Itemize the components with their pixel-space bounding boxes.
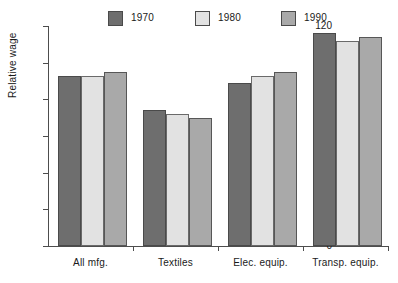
bar	[228, 83, 251, 246]
bar	[104, 72, 127, 246]
legend-swatch-1970	[108, 11, 123, 26]
y-axis-tick	[43, 209, 48, 210]
x-axis-group-label: Elec. equip.	[233, 258, 288, 268]
x-axis-separator-tick	[133, 246, 134, 251]
y-axis-title: Relative wage	[8, 33, 18, 98]
y-axis-tick	[43, 136, 48, 137]
bar	[336, 41, 359, 246]
bar	[166, 114, 189, 246]
y-axis-tick-label: 120	[302, 21, 332, 31]
x-axis-separator-tick	[388, 246, 389, 251]
legend-swatch-1980	[195, 11, 210, 26]
legend-label-1970: 1970	[131, 13, 154, 23]
bar	[189, 118, 212, 246]
legend-label-1980: 1980	[218, 13, 241, 23]
bar	[251, 76, 274, 247]
plot-area: 020406080100120 All mfg.TextilesElec. eq…	[48, 26, 388, 246]
y-axis-line	[48, 26, 49, 247]
bar-chart-figure: 1970 1980 1990 Relative wage 02040608010…	[0, 0, 398, 283]
legend-swatch-1990	[281, 11, 296, 26]
bar	[274, 72, 297, 246]
bar	[359, 37, 382, 246]
bar	[81, 76, 104, 247]
legend-item-1980: 1980	[195, 8, 241, 28]
y-axis-tick	[43, 173, 48, 174]
y-axis-tick	[43, 63, 48, 64]
x-axis-separator-tick	[303, 246, 304, 251]
x-axis-separator-tick	[218, 246, 219, 251]
y-axis-tick	[43, 99, 48, 100]
x-axis-group-label: All mfg.	[73, 258, 108, 268]
legend-item-1970: 1970	[108, 8, 154, 28]
bar	[58, 76, 81, 247]
bar	[313, 33, 336, 246]
bar	[143, 110, 166, 246]
y-axis-tick	[43, 26, 48, 27]
x-axis-group-label: Textiles	[158, 258, 193, 268]
y-axis-tick	[43, 246, 48, 247]
x-axis-group-label: Transp. equip.	[312, 258, 378, 268]
